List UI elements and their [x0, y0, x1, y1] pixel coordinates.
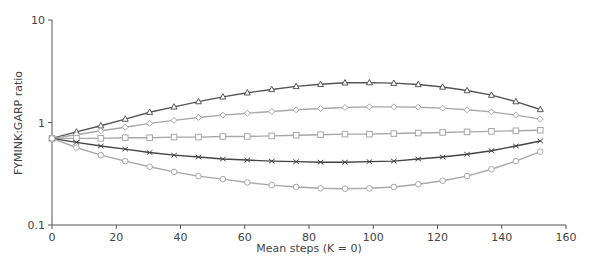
y-axis: 0.1110: [28, 14, 53, 232]
square-marker-icon: [489, 129, 495, 135]
square-marker-icon: [245, 134, 251, 140]
diamond-marker-icon: [391, 104, 397, 110]
square-marker-icon: [342, 131, 348, 137]
square-marker-icon: [391, 131, 397, 137]
circle-marker-icon: [391, 184, 397, 190]
square-marker-icon: [147, 135, 153, 141]
square-marker-icon: [98, 136, 104, 142]
circle-marker-icon: [220, 176, 226, 182]
circle-marker-icon: [440, 178, 446, 184]
circle-marker-icon: [342, 186, 348, 192]
square-marker-icon: [122, 135, 128, 141]
diamond-marker-icon: [195, 114, 201, 120]
square-marker-icon: [318, 132, 324, 138]
series-square: [49, 127, 543, 141]
square-marker-icon: [269, 133, 275, 139]
x-tick-label: 0: [49, 231, 56, 244]
diamond-marker-icon: [293, 107, 299, 113]
square-marker-icon: [293, 133, 299, 139]
diamond-marker-icon: [98, 128, 104, 134]
square-marker-icon: [415, 130, 421, 136]
diamond-marker-icon: [220, 112, 226, 118]
diamond-marker-icon: [537, 116, 543, 122]
square-marker-icon: [513, 128, 519, 134]
square-marker-icon: [464, 129, 470, 135]
square-marker-icon: [171, 134, 177, 140]
circle-marker-icon: [245, 180, 251, 186]
x-tick-label: 40: [174, 231, 188, 244]
x-tick-label: 20: [109, 231, 123, 244]
circle-marker-icon: [171, 169, 177, 175]
series-circle: [49, 136, 543, 192]
circle-marker-icon: [122, 158, 128, 164]
circle-marker-icon: [74, 145, 80, 151]
square-marker-icon: [220, 134, 226, 140]
circle-marker-icon: [318, 186, 324, 192]
circle-marker-icon: [538, 149, 544, 155]
circle-marker-icon: [489, 166, 495, 172]
chart: 0.1110 020406080100120140160 Mean steps …: [0, 0, 589, 270]
x-axis-label: Mean steps (K = 0): [256, 242, 362, 255]
circle-marker-icon: [464, 173, 470, 179]
diamond-marker-icon: [440, 105, 446, 111]
diamond-marker-icon: [513, 112, 519, 118]
circle-marker-icon: [49, 136, 55, 142]
diamond-marker-icon: [147, 120, 153, 126]
circle-marker-icon: [196, 173, 202, 179]
circle-marker-icon: [147, 164, 153, 170]
x-tick-label: 100: [363, 231, 384, 244]
x-tick-label: 140: [491, 231, 512, 244]
square-marker-icon: [367, 131, 373, 137]
circle-marker-icon: [367, 186, 373, 192]
x-tick-label: 160: [556, 231, 577, 244]
circle-marker-icon: [269, 182, 275, 188]
y-tick-label: 1: [38, 117, 45, 130]
diamond-marker-icon: [464, 107, 470, 113]
circle-marker-icon: [293, 184, 299, 190]
circle-marker-icon: [98, 152, 104, 158]
diamond-marker-icon: [342, 105, 348, 111]
y-tick-label: 10: [31, 14, 45, 27]
square-marker-icon: [196, 134, 202, 140]
x-tick-label: 60: [238, 231, 252, 244]
diamond-marker-icon: [366, 104, 372, 110]
y-axis-label: FYMINK:GARP ratio: [12, 71, 25, 175]
diamond-marker-icon: [122, 124, 128, 130]
diamond-marker-icon: [488, 109, 494, 115]
plot-area: [49, 79, 543, 191]
diamond-marker-icon: [269, 109, 275, 115]
square-marker-icon: [440, 130, 446, 136]
square-marker-icon: [538, 127, 544, 133]
diamond-marker-icon: [244, 110, 250, 116]
diamond-marker-icon: [171, 117, 177, 123]
y-tick-label: 0.1: [28, 219, 46, 232]
x-tick-label: 120: [427, 231, 448, 244]
circle-marker-icon: [513, 158, 519, 164]
circle-marker-icon: [415, 181, 421, 187]
diamond-marker-icon: [318, 105, 324, 111]
diamond-marker-icon: [415, 104, 421, 110]
